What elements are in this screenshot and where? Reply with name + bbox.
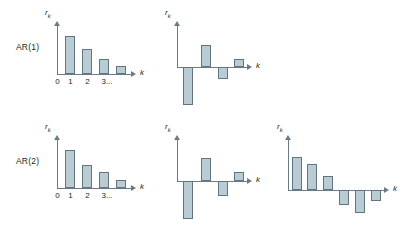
x-tick-0: 0: [52, 191, 63, 200]
bar: [65, 150, 75, 188]
bar: [218, 181, 228, 196]
x-axis-label: k: [140, 182, 144, 191]
x-axis-arrow-icon: [131, 71, 136, 77]
bar: [82, 49, 92, 74]
bar: [201, 45, 211, 67]
x-axis-arrow-icon: [247, 64, 252, 70]
bar: [201, 158, 211, 181]
x-axis-arrow-icon: [384, 187, 389, 193]
bar: [234, 59, 244, 67]
y-axis-line: [57, 25, 58, 74]
x-tick-3: 3...: [97, 191, 117, 200]
y-axis-label: rk: [45, 122, 51, 133]
bar: [183, 67, 193, 105]
chart-ar1-monotonic: rk k 0 1 2 3...: [40, 8, 150, 106]
x-axis-arrow-icon: [131, 185, 136, 191]
bar: [183, 181, 193, 219]
bar: [307, 164, 317, 190]
row-label-ar2: AR(2): [16, 156, 39, 166]
bar: [371, 190, 381, 201]
y-axis-label: rk: [165, 8, 171, 19]
x-axis-line: [57, 188, 131, 189]
bar: [292, 157, 302, 190]
chart-ar2-damped-sine: rk k: [275, 122, 410, 222]
x-tick-3: 3...: [97, 77, 117, 86]
x-axis-line: [288, 190, 384, 191]
bar: [99, 172, 109, 188]
x-tick-2: 2: [82, 77, 93, 86]
x-axis-label: k: [393, 184, 397, 193]
y-axis-label: rk: [277, 122, 283, 133]
row-ar1: AR(1) rk k 0 1 2 3... rk: [0, 0, 416, 114]
bar: [82, 165, 92, 188]
bar: [116, 180, 126, 188]
chart-ar1-alternating: rk k: [160, 8, 275, 108]
row-label-ar1: AR(1): [16, 42, 39, 52]
x-axis-line: [57, 74, 131, 75]
bar: [65, 36, 75, 74]
bar: [355, 190, 365, 213]
bar: [339, 190, 349, 205]
bar: [218, 67, 228, 79]
x-tick-2: 2: [82, 191, 93, 200]
x-axis-label: k: [256, 175, 260, 184]
x-tick-1: 1: [65, 191, 76, 200]
bar: [234, 172, 244, 181]
row-ar2: AR(2) rk k 0 1 2 3... rk: [0, 114, 416, 228]
y-axis-label: rk: [45, 8, 51, 19]
x-tick-1: 1: [65, 77, 76, 86]
y-axis-line: [177, 25, 178, 67]
x-tick-0: 0: [52, 77, 63, 86]
x-axis-label: k: [256, 61, 260, 70]
bar: [116, 66, 126, 74]
bar: [99, 59, 109, 74]
x-axis-label: k: [140, 68, 144, 77]
y-axis-label: rk: [165, 122, 171, 133]
correlogram-figure: AR(1) rk k 0 1 2 3... rk: [0, 0, 416, 228]
y-axis-line: [177, 139, 178, 181]
chart-ar2-alternating: rk k: [160, 122, 275, 222]
x-axis-arrow-icon: [247, 178, 252, 184]
y-axis-line: [57, 139, 58, 188]
chart-ar2-monotonic: rk k 0 1 2 3...: [40, 122, 150, 220]
bar: [323, 176, 333, 190]
y-axis-line: [288, 139, 289, 190]
